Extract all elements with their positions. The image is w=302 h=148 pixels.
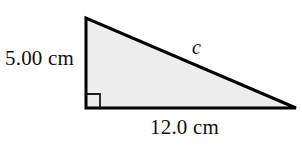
figure-canvas: 5.00 cm 12.0 cm c bbox=[0, 0, 302, 148]
hypotenuse-label: c bbox=[192, 37, 201, 57]
horizontal-leg-label: 12.0 cm bbox=[150, 117, 219, 138]
right-triangle-shape bbox=[86, 18, 296, 108]
vertical-leg-label: 5.00 cm bbox=[5, 48, 74, 69]
